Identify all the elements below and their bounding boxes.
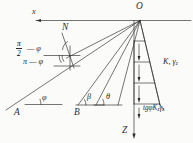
depth-axis-label-Z: Z [122, 126, 127, 135]
fraction-numerator-pi: π [16, 40, 22, 47]
angle-pi-minus-phi-label: π — φ [23, 58, 43, 66]
ray-O-to-N [67, 21, 141, 59]
diagram-canvas: x O N π 2 — φ π — φ φ A β θ B K, γz tgφK… [0, 0, 193, 143]
x-axis-label: x [32, 8, 36, 16]
ray-O-to-B2 [96, 21, 140, 106]
distribution-arrow-head-3 [138, 98, 141, 103]
angle-beta-label: β [87, 93, 91, 101]
angle-phi-arc-A [40, 99, 41, 104]
shear-gamma-subscript: z [162, 106, 164, 112]
angle-phi-label-A: φ [42, 94, 47, 102]
fraction-denominator-2: 2 [16, 50, 22, 57]
angle-theta-label: θ [106, 93, 110, 101]
engineering-diagram-svg [0, 0, 193, 143]
stress-label-k-gamma: K, γz [163, 58, 178, 66]
shear-tg-phi-text: tgφ [143, 104, 153, 112]
origin-label-O: O [136, 2, 143, 11]
point-label-A: A [14, 108, 20, 117]
normal-line-N [62, 33, 74, 68]
stress-k-text: K, [163, 57, 171, 66]
point-label-B: B [74, 108, 80, 117]
stress-gamma-subscript: z [176, 60, 178, 66]
shear-arrow-head [138, 114, 141, 119]
angle-pi-phi-arc-outer [59, 56, 61, 63]
angle-beta-arc [85, 100, 86, 105]
angle-pi-phi-arc [62, 56, 64, 62]
x-axis-arrowhead [36, 19, 41, 22]
distribution-arrow-head-1 [138, 56, 141, 61]
angle-half-pi-minus-phi-remainder: — φ [27, 45, 41, 53]
shear-stress-label: tgφKzγz [143, 105, 164, 112]
distribution-arrow-head-2 [138, 77, 141, 82]
normal-label-N: N [62, 23, 68, 32]
distribution-right-edge [140, 21, 160, 106]
angle-theta-arc [103, 99, 104, 105]
z-axis-arrowhead [132, 134, 135, 140]
angle-half-pi-minus-phi-fraction: π 2 [16, 40, 22, 57]
